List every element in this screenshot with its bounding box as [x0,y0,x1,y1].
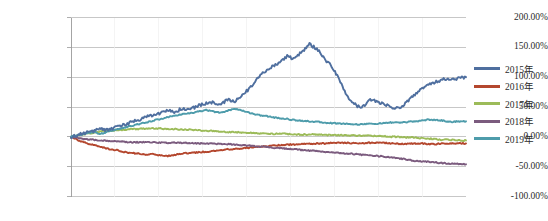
series-line-2015年 [71,43,466,138]
legend-label: 2017年 [505,97,534,111]
legend-item[interactable]: 2019年 [474,130,548,148]
y-axis-tick-label: -100.00% [480,192,548,202]
legend-color-swatch [474,120,500,123]
legend-item[interactable]: 2017年 [474,95,548,113]
legend-label: 2018年 [505,114,534,128]
legend-item[interactable]: 2015年 [474,60,548,78]
legend-color-swatch [474,137,500,140]
chart-legend: 2015年2016年2017年2018年2019年 [474,60,548,148]
gridlines [71,18,466,197]
legend-item[interactable]: 2018年 [474,113,548,131]
chart-plot-area [0,0,548,221]
chart-container: 200.00%150.00%100.00%50.00%0.00%-50.00%-… [0,0,548,221]
legend-item[interactable]: 2016年 [474,78,548,96]
series-line-2019年 [71,109,466,137]
legend-label: 2015年 [505,62,534,76]
legend-color-swatch [474,102,500,105]
y-axis-tick-label: 200.00% [480,13,548,23]
series-line-2018年 [71,137,466,165]
y-axis-tick-label: 150.00% [480,42,548,52]
legend-color-swatch [474,67,500,70]
y-axis-tick-label: -50.00% [480,162,548,172]
legend-label: 2016年 [505,79,534,93]
series-lines [71,43,466,165]
series-line-2017年 [71,128,466,141]
legend-color-swatch [474,85,500,88]
axis-lines [67,18,71,197]
legend-label: 2019年 [505,132,534,146]
